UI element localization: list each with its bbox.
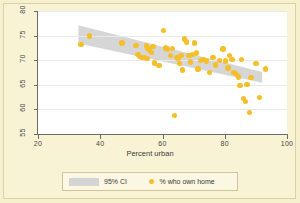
scatter-point bbox=[263, 66, 268, 71]
legend-dot-own-home bbox=[149, 179, 155, 185]
scatter-point bbox=[161, 28, 166, 33]
scatter-point bbox=[78, 42, 83, 47]
y-axis-tick bbox=[34, 36, 38, 37]
scatter-point bbox=[257, 95, 262, 100]
legend-swatch-ci bbox=[69, 178, 99, 186]
y-axis-tick-label: 75 bbox=[19, 26, 26, 42]
y-axis-tick bbox=[34, 60, 38, 61]
scatter-point bbox=[144, 56, 149, 61]
scatter-point bbox=[133, 43, 138, 48]
legend-label-own-home: % who own home bbox=[159, 178, 214, 185]
scatter-point bbox=[248, 75, 253, 80]
scatter-point bbox=[207, 70, 212, 75]
scatter-point bbox=[217, 58, 222, 63]
scatter-point bbox=[247, 110, 252, 115]
gridline bbox=[38, 85, 287, 86]
chart-legend: 95% CI % who own home bbox=[62, 172, 238, 191]
scatter-point bbox=[170, 46, 175, 51]
chart-root: 556065707580 20406080100 Percent urban 9… bbox=[0, 0, 300, 203]
scatter-point bbox=[168, 53, 173, 58]
x-axis-tick-label: 40 bbox=[88, 140, 112, 147]
scatter-point bbox=[87, 33, 92, 38]
plot-area bbox=[38, 11, 287, 134]
scatter-point bbox=[213, 62, 218, 67]
x-axis-tick bbox=[287, 135, 288, 139]
gridline bbox=[38, 36, 287, 37]
scatter-point bbox=[150, 44, 155, 49]
scatter-point bbox=[177, 61, 182, 66]
scatter-point bbox=[188, 59, 193, 64]
y-axis-tick bbox=[34, 109, 38, 110]
scatter-point bbox=[229, 57, 234, 62]
y-axis-tick-label: 65 bbox=[19, 75, 26, 91]
x-axis-title: Percent urban bbox=[0, 149, 300, 158]
x-axis-tick bbox=[163, 135, 164, 139]
scatter-point bbox=[225, 65, 230, 70]
y-axis-tick bbox=[34, 85, 38, 86]
x-axis-tick bbox=[100, 135, 101, 139]
y-axis-tick-label: 60 bbox=[19, 100, 26, 116]
scatter-point bbox=[220, 46, 225, 51]
x-axis-tick-label: 100 bbox=[275, 140, 299, 147]
scatter-point bbox=[194, 50, 199, 55]
scatter-point bbox=[237, 83, 242, 88]
gridline bbox=[38, 60, 287, 61]
scatter-point bbox=[192, 40, 197, 45]
x-axis-tick-label: 80 bbox=[213, 140, 237, 147]
scatter-point bbox=[172, 113, 177, 118]
scatter-point bbox=[243, 99, 248, 104]
scatter-point bbox=[180, 67, 185, 72]
scatter-point bbox=[204, 58, 209, 63]
scatter-point bbox=[178, 53, 183, 58]
scatter-point bbox=[236, 74, 241, 79]
y-axis-tick-label: 80 bbox=[19, 2, 26, 18]
scatter-point bbox=[253, 61, 258, 66]
scatter-point bbox=[184, 39, 189, 44]
y-axis-tick-label: 70 bbox=[19, 51, 26, 67]
x-axis-tick bbox=[225, 135, 226, 139]
scatter-point bbox=[195, 66, 200, 71]
y-axis-tick-label: 55 bbox=[19, 125, 26, 141]
x-axis-tick-label: 60 bbox=[151, 140, 175, 147]
y-axis-tick bbox=[34, 11, 38, 12]
scatter-point bbox=[149, 50, 154, 55]
scatter-point bbox=[244, 82, 249, 87]
scatter-point bbox=[223, 58, 228, 63]
scatter-point bbox=[210, 55, 215, 60]
x-axis-tick-label: 20 bbox=[26, 140, 50, 147]
x-axis-tick bbox=[38, 135, 39, 139]
legend-label-ci: 95% CI bbox=[104, 178, 127, 185]
scatter-point bbox=[119, 40, 124, 45]
scatter-point bbox=[156, 63, 161, 68]
gridline bbox=[38, 11, 287, 12]
